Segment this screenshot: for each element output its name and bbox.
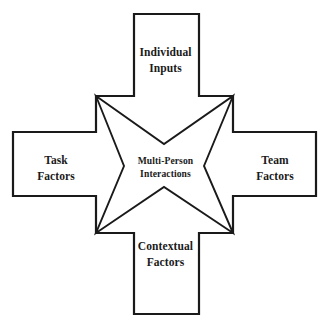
- cross-outline: [13, 14, 316, 314]
- diagram-canvas: Individual Inputs Task Factors Team Fact…: [0, 0, 331, 328]
- diagram-graphics: [0, 0, 331, 328]
